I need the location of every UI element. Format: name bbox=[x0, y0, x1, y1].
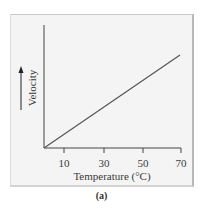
data-line bbox=[44, 55, 180, 148]
x-axis-title: Temperature (°C) bbox=[73, 170, 151, 183]
figure-caption: (a) bbox=[0, 190, 203, 201]
x-tick-label-70: 70 bbox=[176, 157, 188, 169]
x-tick-label-10: 10 bbox=[59, 157, 71, 169]
chart-svg: 10 30 50 70 Temperature (°C) Velocity bbox=[0, 0, 203, 211]
x-tick-label-50: 50 bbox=[138, 157, 150, 169]
y-axis-title: Velocity bbox=[26, 69, 38, 106]
x-tick-label-30: 30 bbox=[99, 157, 111, 169]
up-arrow-icon bbox=[19, 66, 24, 110]
